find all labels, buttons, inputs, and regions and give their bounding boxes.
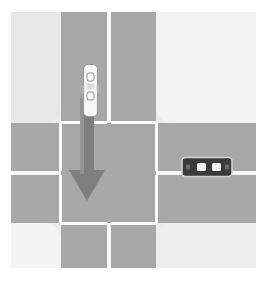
- bottom-right-block: [156, 223, 256, 268]
- diagram-stage: [0, 0, 269, 281]
- edge-line-west-upper: [59, 123, 62, 171]
- bottom-left-block: [11, 223, 61, 268]
- white-car-icon: [81, 64, 100, 117]
- stop-line-south-right: [111, 222, 156, 225]
- edge-line-east-lower: [155, 175, 158, 223]
- top-left-block: [11, 12, 61, 123]
- stop-line-north-right: [111, 121, 156, 124]
- edge-line-west-lower: [59, 175, 62, 223]
- dark-car-icon: [181, 155, 233, 179]
- top-right-block: [156, 12, 256, 123]
- stop-line-south-left: [61, 222, 107, 225]
- edge-line-east-upper: [155, 123, 158, 171]
- intersection-scene: [11, 12, 256, 268]
- horizontal-centerline-west: [11, 171, 61, 175]
- vertical-centerline-south: [107, 223, 111, 268]
